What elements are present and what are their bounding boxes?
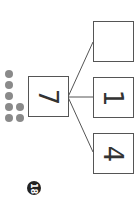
page-number-badge: 18	[27, 181, 41, 195]
counter-dot	[5, 70, 13, 78]
part-number: 4	[100, 145, 126, 162]
page-number: 18	[29, 182, 38, 193]
counter-dot	[5, 92, 13, 100]
whole-box: 7	[28, 76, 69, 117]
counter-dot	[16, 103, 24, 111]
counter-dot	[5, 103, 13, 111]
part-box: 4	[93, 133, 134, 174]
part-number: 1	[100, 89, 126, 106]
whole-number: 7	[35, 88, 61, 105]
part-box: 1	[93, 77, 134, 118]
counter-dot	[5, 114, 13, 122]
part-box-empty[interactable]	[93, 21, 134, 62]
counter-dot	[16, 114, 24, 122]
counter-dot	[5, 81, 13, 89]
